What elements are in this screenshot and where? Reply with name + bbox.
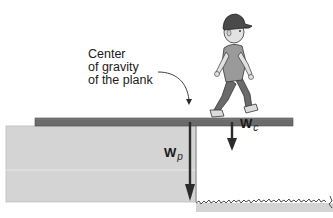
child-weight-symbol: W — [240, 116, 252, 131]
label-line-3: of the plank — [88, 74, 198, 87]
plank-weight-symbol: W — [164, 145, 176, 160]
grass-ground — [196, 196, 333, 212]
boy-figure — [210, 14, 258, 117]
child-weight-subscript: c — [253, 122, 258, 133]
ledge-block — [6, 126, 196, 202]
plank-diagram: Center of gravity of the plank Wp Wc — [0, 0, 333, 218]
plank-weight-subscript: p — [177, 151, 183, 162]
child-weight-label: Wc — [240, 116, 258, 133]
cog-pointer-arrowhead — [186, 99, 192, 105]
center-of-gravity-label: Center of gravity of the plank — [88, 48, 198, 87]
child-weight-arrow — [227, 122, 237, 151]
plank-weight-label: Wp — [164, 145, 183, 162]
